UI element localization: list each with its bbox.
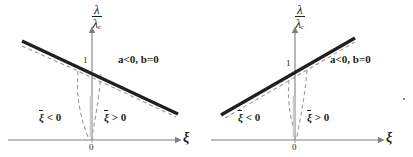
dashed-drop-right-curve bbox=[297, 70, 307, 137]
region-label-negative-symbol: ξ bbox=[238, 112, 243, 123]
y-axis-label-denominator-subscript: c bbox=[301, 23, 304, 31]
unit-tick-label: 1 bbox=[83, 56, 88, 65]
region-label-positive: ξ > 0 bbox=[307, 112, 329, 123]
unit-tick-label: 1 bbox=[286, 59, 291, 68]
y-axis-label-numerator: λ bbox=[295, 3, 305, 17]
panel-right-plot bbox=[207, 0, 413, 157]
params-annotation: a<0, b=0 bbox=[118, 54, 159, 65]
figure-root: λ λc 1 0 ξ ξ < 0 ξ > 0 a<0, b=0 bbox=[0, 0, 413, 157]
y-axis-label-denominator-subscript: c bbox=[98, 23, 101, 31]
origin-label: 0 bbox=[89, 143, 94, 152]
x-axis-label: ξ bbox=[386, 131, 392, 145]
panel-right: λ λc 1 0 ξ ξ < 0 ξ > 0 a<0, b=0 bbox=[207, 0, 413, 157]
panel-left: λ λc 1 0 ξ ξ < 0 ξ > 0 a<0, b=0 bbox=[0, 0, 206, 157]
x-axis-label: ξ bbox=[183, 131, 189, 145]
region-label-negative: ξ < 0 bbox=[238, 112, 260, 123]
y-axis-label-numerator: λ bbox=[92, 3, 102, 17]
region-label-positive: ξ > 0 bbox=[104, 112, 126, 123]
solid-branch-curve bbox=[221, 38, 355, 115]
dashed-drop-right-curve bbox=[92, 74, 101, 137]
panel-left-plot bbox=[0, 0, 206, 157]
region-label-positive-relation: > 0 bbox=[315, 111, 330, 123]
dashed-drop-left-curve bbox=[77, 71, 88, 137]
y-axis-label-denominator: λc bbox=[92, 17, 102, 31]
params-annotation: a<0, b=0 bbox=[330, 54, 371, 65]
origin-label: 0 bbox=[292, 143, 297, 152]
region-label-negative-relation: < 0 bbox=[47, 111, 62, 123]
solid-branch-curve bbox=[22, 41, 178, 114]
region-label-negative-symbol: ξ bbox=[39, 112, 44, 123]
scan-speck bbox=[403, 98, 405, 100]
region-label-negative: ξ < 0 bbox=[39, 112, 61, 123]
region-label-positive-symbol: ξ bbox=[104, 112, 109, 123]
y-axis-label: λ λc bbox=[295, 3, 305, 31]
region-label-positive-symbol: ξ bbox=[307, 112, 312, 123]
region-label-positive-relation: > 0 bbox=[112, 111, 127, 123]
region-label-negative-relation: < 0 bbox=[246, 111, 261, 123]
y-axis-label: λ λc bbox=[92, 3, 102, 31]
y-axis-label-denominator: λc bbox=[295, 17, 305, 31]
